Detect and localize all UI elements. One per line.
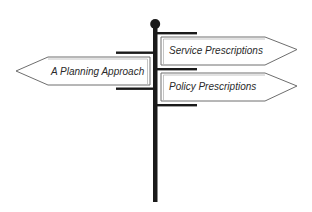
bracket-service-top	[157, 32, 197, 34]
sign-policy-prescriptions: Policy Prescriptions	[161, 73, 297, 101]
bracket-planning-bottom	[116, 88, 154, 90]
bracket-policy-bottom	[157, 104, 197, 106]
sign-label-planning: A Planning Approach	[50, 66, 145, 77]
pole-knob	[150, 19, 160, 29]
sign-a-planning-approach: A Planning Approach	[16, 57, 150, 85]
sign-label-policy: Policy Prescriptions	[169, 81, 256, 92]
bracket-planning-top	[116, 52, 154, 54]
signpost-diagram: Service Prescriptions Policy Prescriptio…	[0, 0, 312, 212]
bracket-service-bottom	[157, 68, 197, 70]
sign-label-service: Service Prescriptions	[169, 45, 263, 56]
sign-service-prescriptions: Service Prescriptions	[161, 37, 297, 65]
